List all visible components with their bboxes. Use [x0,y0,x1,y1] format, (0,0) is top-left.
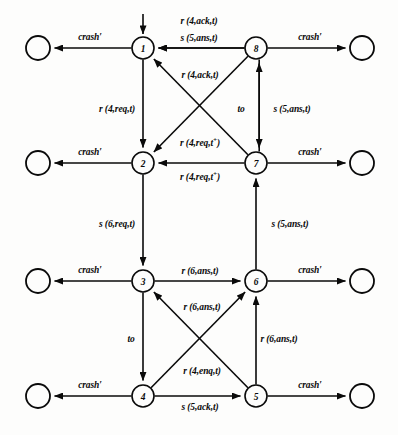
crash-state-crash-1[interactable] [26,36,50,60]
crash-label-c-1: crash′ [78,33,102,43]
transition-label-t-8-1-a: r (4,ack,t) [180,17,217,27]
transition-label-t-8-2: r (4,req,t+) [180,137,220,149]
transition-label-t-4-5: s (5,ack,t) [181,403,218,413]
crash-state-crash-8[interactable] [350,36,374,60]
crash-label-c-5: crash′ [298,381,322,391]
transition-label-t-3-6: r (6,ans,t) [181,267,218,277]
crash-label-c-8: crash′ [298,33,322,43]
crash-state-crash-4[interactable] [26,384,50,408]
transition-label-t-7-8: to [237,105,244,115]
state-label-5: 5 [254,392,259,402]
transition-label-t-1-2: r (4,req,t) [99,105,135,115]
crash-label-c-3: crash′ [78,266,102,276]
crash-label-c-4: crash′ [78,381,102,391]
crash-label-c-2: crash′ [78,148,102,158]
state-transition-diagram: 18273645r (4,ack,t)s (5,ans,t)r (4,ack,t… [0,0,398,435]
state-label-2: 2 [141,159,146,169]
transition-label-t-7-1: r (4,ack,t) [181,71,218,81]
state-label-7: 7 [254,159,259,169]
transition-label-t-4-6: r (4,enq,t) [183,367,221,377]
transition-label-t-7-2: r (4,req,t+) [180,171,220,183]
transition-label-t-5-3: r (6,ans,t) [183,303,220,313]
transition-label-t-6-7: s (5,ans,t) [271,220,308,230]
transition-label-t-3-4: to [127,335,134,345]
transition-label-t-5-6: r (6,ans,t) [260,335,297,345]
crash-state-crash-3[interactable] [26,269,50,293]
transition-label-t-8-1-b: s (5,ans,t) [180,34,217,44]
state-label-8: 8 [254,44,259,54]
transition-label-t-2-3: s (6,req,t) [99,220,135,230]
transition-label-t-8-7: s (5,ans,t) [273,105,310,115]
state-label-1: 1 [141,44,146,54]
crash-state-crash-2[interactable] [26,151,50,175]
crash-label-c-6: crash′ [298,266,322,276]
crash-state-crash-7[interactable] [350,151,374,175]
crash-state-crash-6[interactable] [350,269,374,293]
state-label-6: 6 [254,277,259,287]
crash-state-crash-5[interactable] [350,384,374,408]
state-label-3: 3 [141,277,146,287]
state-label-4: 4 [141,392,146,402]
crash-label-c-7: crash′ [298,148,322,158]
